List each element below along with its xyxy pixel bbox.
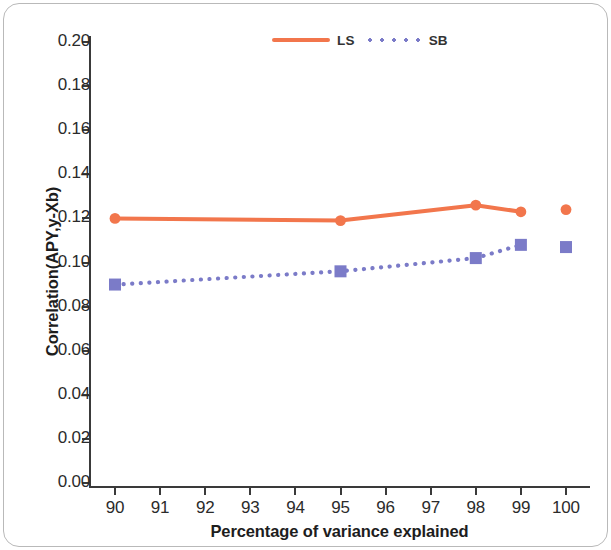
legend-swatch-sb-icon <box>364 38 422 42</box>
legend-entry-sb[interactable]: SB <box>364 33 448 48</box>
legend-entry-ls[interactable]: LS <box>272 33 355 48</box>
data-point-ls <box>470 200 481 211</box>
data-point-sb <box>335 265 347 277</box>
data-point-ls <box>335 215 346 226</box>
legend-swatch-ls-icon <box>272 38 330 42</box>
data-point-sb <box>109 279 121 291</box>
data-point-sb <box>560 241 572 253</box>
y-axis-title: Correlation(APY,y-Xb) <box>43 72 62 472</box>
data-point-ls <box>516 206 527 217</box>
legend-label: SB <box>429 33 448 48</box>
series-layer <box>0 0 611 550</box>
series-line-sb <box>115 245 521 285</box>
chart-legend: LSSB <box>272 30 448 50</box>
data-point-ls <box>110 213 121 224</box>
series-line-ls <box>115 205 521 220</box>
chart-figure: 0.000.020.040.060.080.100.120.140.160.18… <box>0 0 611 550</box>
x-axis-title: Percentage of variance explained <box>89 522 590 541</box>
plot-area: 0.000.020.040.060.080.100.120.140.160.18… <box>0 0 611 550</box>
data-point-sb <box>470 252 482 264</box>
data-point-ls <box>561 204 572 215</box>
data-point-sb <box>515 239 527 251</box>
legend-label: LS <box>337 33 355 48</box>
